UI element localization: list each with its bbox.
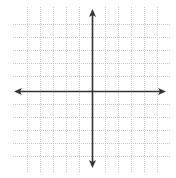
coordinate-plane <box>0 0 176 178</box>
axes <box>14 9 166 168</box>
grid-lines <box>13 7 170 172</box>
coordinate-grid-svg <box>0 0 176 178</box>
